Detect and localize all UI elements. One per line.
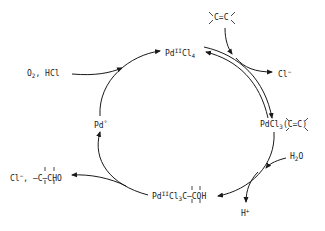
pdcl4-base: Pd xyxy=(165,49,175,58)
arrow-product-out xyxy=(72,175,126,186)
arrow-pd0-to-pdcl4 xyxy=(100,51,160,116)
pd-alkyl-hydroxyalkyl: C–COH xyxy=(182,192,206,201)
arrow-pdcl4-to-pdalkene xyxy=(204,47,272,118)
species-pd0: Pd° xyxy=(94,118,107,131)
pd-alkyl-oxidation-state: II xyxy=(162,190,169,197)
chloride-base: Cl xyxy=(278,70,288,79)
pd-alkene-ligand: (C=C) xyxy=(283,120,307,129)
water-o: O xyxy=(298,152,303,161)
species-pd-alkyl-complex: PdIICl3C–COH xyxy=(152,189,206,204)
catalytic-cycle-diagram: PdIICl4 C=C Cl− PdCl3(C=C) H2O H+ PdIICl… xyxy=(0,0,325,231)
oxidant-hcl: , HCl xyxy=(35,69,59,78)
pdcl4-oxidation-state: II xyxy=(175,47,182,54)
pdcl4-count: 4 xyxy=(192,52,196,59)
product-chloride: Cl xyxy=(10,174,20,183)
reagent-oxidant: O2, HCl xyxy=(27,69,60,81)
species-pd-alkene-complex: PdCl3(C=C) xyxy=(260,120,307,132)
pd0-base: Pd xyxy=(94,121,104,130)
product-aldehyde: Cl−, –C–CHO xyxy=(10,171,62,184)
arrow-alkene-in xyxy=(225,28,232,54)
arrow-pdalkyl-to-pd0 xyxy=(98,132,148,195)
proton-charge: + xyxy=(246,207,250,214)
arrow-pdalkene-to-pdcl4 xyxy=(206,52,268,118)
pd-alkyl-base: Pd xyxy=(152,192,162,201)
pd-alkene-base: PdCl xyxy=(260,120,279,129)
pd0-oxidation-state: ° xyxy=(104,119,108,126)
arrow-pdalkene-to-pdalkyl xyxy=(218,132,274,196)
pd-alkyl-ligand: Cl xyxy=(169,192,179,201)
alkene-substituent-bonds xyxy=(45,12,308,203)
reagent-proton-out: H+ xyxy=(241,206,249,219)
reagent-chloride-out: Cl− xyxy=(278,67,291,80)
chloride-charge: − xyxy=(288,68,292,75)
pdcl4-ligand: Cl xyxy=(182,49,192,58)
arrow-oxidant-in xyxy=(72,68,122,75)
reagent-alkene: C=C xyxy=(214,13,228,23)
product-aldehyde-formula: , –C–CHO xyxy=(23,174,62,183)
species-pdcl4: PdIICl4 xyxy=(165,46,195,61)
reagent-water: H2O xyxy=(290,152,303,164)
